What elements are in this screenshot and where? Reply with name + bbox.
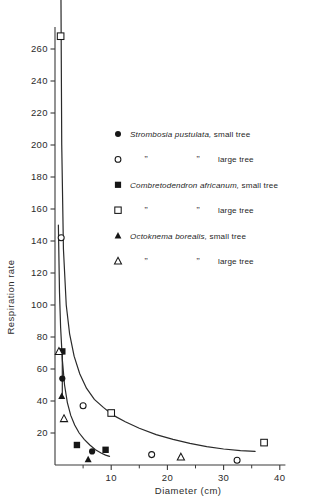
y-tick-label: 80 xyxy=(37,331,48,342)
y-tick-label: 100 xyxy=(31,299,48,310)
legend-ditto-mark-right: ” xyxy=(196,155,200,164)
data-point-marker xyxy=(58,393,65,400)
data-point-marker xyxy=(102,447,108,453)
legend-ditto-mark-left: ” xyxy=(144,257,148,266)
respiration-rate-scatter-chart: 2040608010012014016018020022024026010203… xyxy=(0,0,330,503)
y-tick-label: 240 xyxy=(31,75,48,86)
legend-marker-filled-circle-icon xyxy=(115,131,121,137)
y-tick-label: 20 xyxy=(37,427,48,438)
y-tick-label: 220 xyxy=(31,107,48,118)
y-tick-label: 180 xyxy=(31,171,48,182)
data-point-marker xyxy=(74,442,80,448)
legend-ditto-mark-left: ” xyxy=(144,155,148,164)
legend-marker-filled-square-icon xyxy=(115,182,121,188)
data-point-marker xyxy=(149,452,155,458)
data-point-marker xyxy=(85,456,92,463)
legend-size-label: large tree xyxy=(218,206,254,215)
legend-ditto-mark-right: ” xyxy=(196,257,200,266)
data-point-marker xyxy=(261,439,268,446)
legend-marker-open-square-icon xyxy=(115,207,121,213)
legend-species-name: Octoknema borealis, small tree xyxy=(130,232,246,241)
y-tick-label: 160 xyxy=(31,203,48,214)
data-point-marker xyxy=(80,403,86,409)
data-point-marker xyxy=(60,415,67,422)
data-point-marker xyxy=(234,457,240,463)
data-point-marker xyxy=(177,453,184,460)
legend-ditto-mark-left: ” xyxy=(144,206,148,215)
x-tick-label: 20 xyxy=(162,472,173,483)
legend-size-label: large tree xyxy=(218,257,254,266)
x-tick-label: 40 xyxy=(274,472,285,483)
y-tick-label: 200 xyxy=(31,139,48,150)
legend-marker-open-circle-icon xyxy=(115,157,121,163)
legend-species-name: Strombosia pustulata, small tree xyxy=(130,130,251,139)
data-point-marker xyxy=(108,410,115,417)
y-tick-label: 260 xyxy=(31,43,48,54)
data-point-marker xyxy=(59,376,65,382)
data-point-marker xyxy=(57,33,64,40)
x-axis-title: Diameter (cm) xyxy=(155,485,222,496)
legend-ditto-mark-right: ” xyxy=(196,206,200,215)
y-tick-label: 60 xyxy=(37,363,48,374)
legend-species-name: Combretodendron africanum, small tree xyxy=(130,181,279,190)
data-point-marker xyxy=(89,448,95,454)
y-tick-label: 140 xyxy=(31,235,48,246)
chart-canvas: 2040608010012014016018020022024026010203… xyxy=(0,0,330,503)
legend-marker-open-triangle-icon xyxy=(115,257,122,264)
data-point-marker xyxy=(58,235,64,241)
legend-size-label: large tree xyxy=(218,155,254,164)
y-tick-label: 40 xyxy=(37,395,48,406)
upper-fitted-curve xyxy=(61,0,255,451)
y-axis-title: Respiration rate xyxy=(5,259,16,334)
x-tick-label: 30 xyxy=(218,472,229,483)
legend-marker-filled-triangle-icon xyxy=(115,232,122,238)
x-tick-label: 10 xyxy=(106,472,117,483)
y-tick-label: 120 xyxy=(31,267,48,278)
